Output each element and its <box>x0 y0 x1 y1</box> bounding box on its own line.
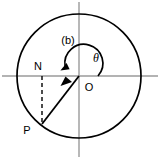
panel-label: (b) <box>61 34 74 46</box>
circular-motion-diagram: (b) θ N O P <box>0 0 160 159</box>
point-label-n: N <box>34 60 42 72</box>
point-label-o: O <box>85 81 94 93</box>
diagram-canvas: (b) θ N O P <box>0 0 160 159</box>
point-label-p: P <box>23 124 30 136</box>
angle-label-theta: θ <box>93 51 99 65</box>
